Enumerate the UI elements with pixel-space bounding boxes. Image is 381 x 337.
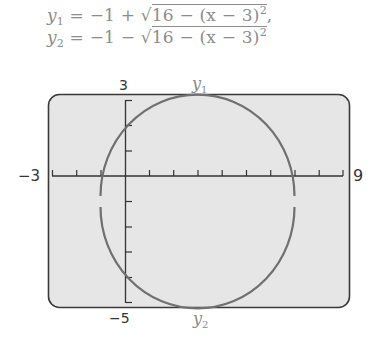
ymin-label: −5 bbox=[109, 310, 130, 326]
y1-curve-label-sub: 1 bbox=[201, 84, 207, 95]
graph-screen bbox=[0, 0, 381, 337]
screen-frame bbox=[49, 95, 350, 308]
y2-curve-label-text: y bbox=[193, 309, 202, 328]
y1-curve-label: y1 bbox=[192, 74, 207, 95]
y2-curve-label: y2 bbox=[193, 309, 208, 330]
y2-curve-label-sub: 2 bbox=[202, 319, 208, 330]
ymax-label: 3 bbox=[119, 77, 128, 93]
xmin-label: −3 bbox=[18, 167, 40, 185]
xmax-label: 9 bbox=[353, 166, 363, 185]
y1-curve-label-text: y bbox=[192, 74, 201, 93]
